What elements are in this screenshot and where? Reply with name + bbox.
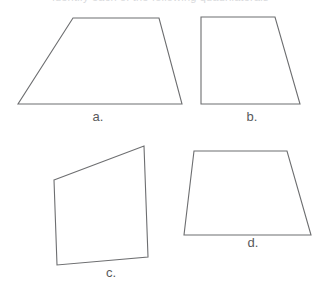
shape-d-label: d. <box>233 235 273 250</box>
shape-c-label: c. <box>91 265 131 280</box>
shape-a-label: a. <box>78 109 118 124</box>
shape-b-polygon <box>201 17 300 104</box>
shape-b-label: b. <box>232 109 272 124</box>
shape-a-polygon <box>18 18 182 104</box>
shape-d-polygon <box>184 151 311 235</box>
shape-c-polygon <box>54 146 148 265</box>
quadrilaterals-worksheet: identify each of the following quadrilat… <box>0 0 321 282</box>
